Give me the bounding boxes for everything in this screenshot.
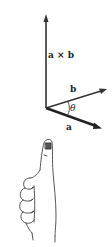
label-a-cross-b: a × b xyxy=(48,51,74,60)
right-hand-icon xyxy=(20,139,56,242)
label-b: b xyxy=(70,85,76,94)
label-a: a xyxy=(66,123,72,132)
vector-b xyxy=(46,89,107,109)
cross-product-diagram xyxy=(0,0,112,247)
label-theta: θ xyxy=(70,104,75,113)
vector-a-cross-b xyxy=(44,14,49,108)
